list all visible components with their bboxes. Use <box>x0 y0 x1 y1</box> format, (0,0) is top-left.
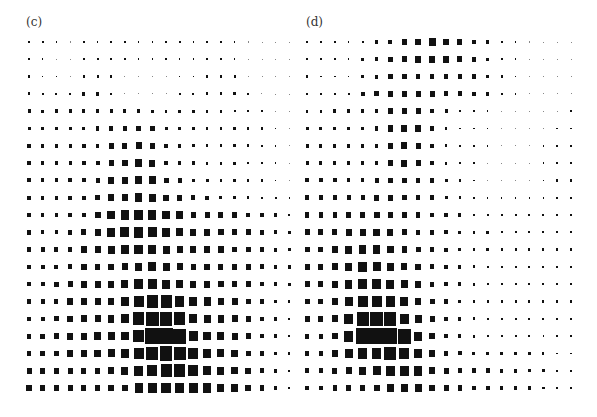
halftone-square <box>204 315 211 323</box>
halftone-square <box>149 194 156 202</box>
halftone-square <box>361 75 364 78</box>
halftone-square <box>137 109 140 112</box>
halftone-square <box>148 262 156 271</box>
halftone-square <box>345 280 353 289</box>
halftone-square <box>41 299 45 304</box>
halftone-square <box>515 214 517 216</box>
halftone-square <box>234 58 236 60</box>
halftone-square <box>528 369 531 372</box>
halftone-square <box>445 196 448 199</box>
halftone-square <box>370 312 383 326</box>
halftone-square <box>430 91 435 97</box>
halftone-square <box>359 367 366 375</box>
halftone-square <box>70 41 71 42</box>
halftone-square <box>123 109 126 112</box>
halftone-square <box>306 93 308 95</box>
halftone-square <box>188 348 198 360</box>
halftone-square <box>275 111 276 112</box>
halftone-square <box>570 318 572 320</box>
halftone-square <box>444 317 448 322</box>
halftone-square <box>133 312 144 325</box>
halftone-square <box>82 109 85 112</box>
halftone-square <box>444 213 448 217</box>
halftone-square <box>472 74 476 79</box>
halftone-square <box>373 366 381 375</box>
halftone-square <box>332 298 338 305</box>
halftone-square <box>501 318 503 320</box>
halftone-square <box>203 366 211 375</box>
halftone-square <box>318 316 323 322</box>
halftone-square <box>289 94 290 95</box>
halftone-square <box>542 266 544 268</box>
halftone-square <box>109 160 114 166</box>
halftone-square <box>515 93 517 95</box>
halftone-square <box>260 299 264 304</box>
halftone-square <box>388 143 393 149</box>
halftone-square <box>529 128 530 129</box>
halftone-square <box>165 110 168 113</box>
halftone-square <box>145 328 159 344</box>
halftone-square <box>121 349 129 358</box>
halftone-square <box>445 127 448 130</box>
halftone-square <box>54 282 59 287</box>
halftone-square <box>163 195 169 201</box>
halftone-square <box>41 110 44 113</box>
halftone-square <box>361 144 364 147</box>
halftone-square <box>260 334 264 339</box>
halftone-square <box>261 162 263 164</box>
halftone-square <box>82 92 85 95</box>
halftone-square <box>83 75 85 77</box>
halftone-square <box>28 58 30 60</box>
halftone-square <box>42 93 44 95</box>
halftone-square <box>152 76 153 77</box>
halftone-square <box>247 196 250 199</box>
halftone-square <box>458 334 461 337</box>
halftone-square <box>306 58 308 60</box>
halftone-square <box>528 386 531 389</box>
halftone-square <box>149 160 155 167</box>
halftone-square <box>190 281 196 288</box>
halftone-square <box>543 162 545 164</box>
halftone-square <box>386 296 395 306</box>
halftone-square <box>501 93 503 95</box>
halftone-square <box>430 126 434 131</box>
halftone-square <box>543 76 544 77</box>
halftone-square <box>360 229 366 236</box>
halftone-square <box>231 367 238 374</box>
halftone-square <box>332 368 337 374</box>
halftone-square <box>487 145 489 147</box>
halftone-square <box>218 212 223 218</box>
halftone-square <box>108 332 115 340</box>
halftone-square <box>388 108 393 114</box>
halftone-square <box>108 349 115 357</box>
halftone-square <box>218 229 224 235</box>
halftone-square <box>416 230 421 235</box>
halftone-square <box>472 386 476 391</box>
halftone-square <box>458 317 461 320</box>
halftone-square <box>190 246 196 253</box>
halftone-square <box>174 347 186 361</box>
halftone-square <box>358 296 368 308</box>
halftone-square <box>472 368 476 373</box>
halftone-square <box>261 179 263 181</box>
panel-d: (d) <box>298 0 597 417</box>
halftone-square <box>515 180 516 181</box>
halftone-square <box>166 93 167 94</box>
halftone-square <box>40 385 46 391</box>
halftone-square <box>501 248 503 250</box>
halftone-square <box>515 318 517 320</box>
halftone-square <box>124 93 125 94</box>
halftone-square <box>248 76 249 77</box>
halftone-square <box>232 264 237 270</box>
halftone-square <box>458 74 463 79</box>
halftone-square <box>261 145 263 147</box>
halftone-square <box>232 247 237 253</box>
halftone-square <box>96 161 100 166</box>
halftone-square <box>152 41 154 43</box>
halftone-square <box>358 348 368 359</box>
halftone-square <box>138 58 140 60</box>
halftone-square <box>501 145 502 146</box>
halftone-square <box>401 384 408 392</box>
halftone-square <box>318 281 323 287</box>
halftone-square <box>515 76 517 78</box>
